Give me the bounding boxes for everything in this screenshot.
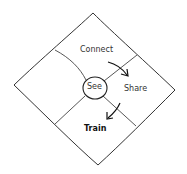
divider-lower-right	[103, 96, 136, 126]
arrow-head-2	[107, 112, 113, 119]
diagram-canvas: See Connect Share Train	[0, 0, 187, 174]
divider-lower-left	[55, 96, 85, 124]
center-label: See	[87, 82, 102, 91]
divider-upper-left	[55, 50, 86, 80]
arrow-connect-to-share	[108, 62, 127, 75]
label-connect: Connect	[80, 45, 113, 54]
label-share: Share	[124, 84, 147, 93]
label-train: Train	[84, 124, 106, 133]
arrow-share-to-train	[108, 103, 120, 118]
